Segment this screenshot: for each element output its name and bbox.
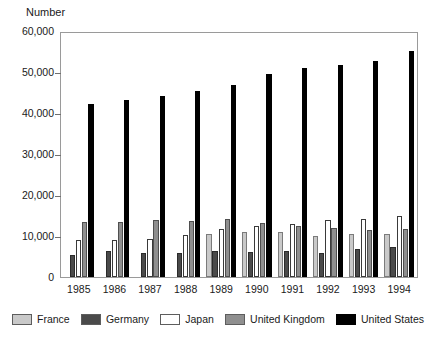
y-tick-label: 60,000: [0, 26, 54, 37]
bar: [409, 51, 414, 277]
legend-item[interactable]: United Kingdom: [225, 313, 325, 325]
bar: [296, 226, 301, 277]
bar: [219, 229, 224, 277]
bar: [118, 222, 123, 277]
bar-group: [275, 33, 311, 277]
bar-group: [203, 33, 239, 277]
bar: [248, 252, 253, 277]
bar-group: [168, 33, 204, 277]
x-tick-label: 1989: [203, 283, 239, 295]
y-tick-label: 50,000: [0, 67, 54, 78]
legend-label: Germany: [106, 313, 149, 325]
bar: [106, 251, 111, 277]
legend-swatch: [81, 314, 101, 325]
bar: [189, 221, 194, 277]
bar: [231, 85, 236, 277]
x-tick-label: 1987: [132, 283, 168, 295]
bar: [355, 249, 360, 277]
bars-layer: [61, 33, 417, 277]
bar: [82, 222, 87, 277]
bar: [242, 232, 247, 277]
legend-swatch: [225, 314, 245, 325]
legend-swatch: [12, 314, 32, 325]
bar: [384, 234, 389, 277]
bar: [124, 100, 129, 277]
bar-group: [132, 33, 168, 277]
bar: [331, 228, 336, 277]
bar: [225, 219, 230, 277]
x-tick-label: 1991: [275, 283, 311, 295]
bar: [266, 74, 271, 277]
legend-item[interactable]: United States: [336, 313, 424, 325]
bar: [338, 65, 343, 277]
bar-group: [97, 33, 133, 277]
bar: [112, 240, 117, 277]
x-tick-label: 1985: [61, 283, 97, 295]
y-tick-label: 40,000: [0, 108, 54, 119]
bar: [260, 223, 265, 277]
bar: [177, 253, 182, 277]
x-tick-label: 1993: [346, 283, 382, 295]
y-tick-label: 10,000: [0, 231, 54, 242]
bar-group: [346, 33, 382, 277]
y-axis-title: Number: [26, 6, 65, 19]
y-tick-label: 20,000: [0, 190, 54, 201]
bar: [373, 61, 378, 277]
legend-item[interactable]: Japan: [160, 313, 214, 325]
bar: [290, 224, 295, 277]
bar: [88, 104, 93, 277]
bar: [183, 235, 188, 277]
bar-group: [239, 33, 275, 277]
x-tick-label: 1990: [239, 283, 275, 295]
bar: [403, 229, 408, 277]
chart-legend: FranceGermanyJapanUnited KingdomUnited S…: [12, 308, 424, 330]
bar: [349, 234, 354, 277]
bar: [302, 68, 307, 277]
legend-label: Japan: [185, 313, 214, 325]
bar-group: [381, 33, 417, 277]
bar-group: [61, 33, 97, 277]
bar: [367, 230, 372, 277]
bar: [278, 232, 283, 277]
bar: [76, 240, 81, 277]
bar: [319, 253, 324, 277]
bar: [195, 91, 200, 277]
bar: [325, 220, 330, 277]
y-tick-label: 30,000: [0, 149, 54, 160]
bar: [147, 239, 152, 277]
legend-item[interactable]: France: [12, 313, 70, 325]
x-tick-label: 1992: [310, 283, 346, 295]
bar: [160, 96, 165, 277]
bar: [153, 220, 158, 277]
legend-swatch: [336, 314, 356, 325]
bar: [70, 255, 75, 277]
x-tick-label: 1986: [97, 283, 133, 295]
bar: [254, 226, 259, 277]
legend-label: France: [37, 313, 70, 325]
bar-chart: Number 010,00020,00030,00040,00050,00060…: [0, 0, 436, 346]
bar: [390, 247, 395, 278]
y-tick-label: 0: [0, 272, 54, 283]
legend-swatch: [160, 314, 180, 325]
x-tick-label: 1988: [168, 283, 204, 295]
bar: [397, 216, 402, 277]
legend-label: United Kingdom: [250, 313, 325, 325]
bar: [141, 253, 146, 277]
bar: [284, 251, 289, 277]
bar: [313, 236, 318, 277]
bar: [361, 219, 366, 277]
bar-group: [310, 33, 346, 277]
legend-item[interactable]: Germany: [81, 313, 149, 325]
legend-label: United States: [361, 313, 424, 325]
x-tick-label: 1994: [381, 283, 417, 295]
bar: [206, 234, 211, 277]
bar: [212, 251, 217, 277]
